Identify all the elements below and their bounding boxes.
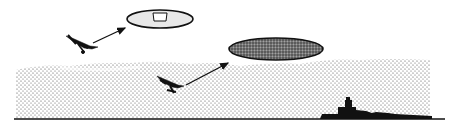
obscured-view-ellipse <box>229 38 323 60</box>
visibility-diagram <box>0 0 458 129</box>
upper-sight-arrow <box>93 28 125 43</box>
upper-aircraft-icon <box>66 35 98 54</box>
fog-layer <box>16 59 430 118</box>
clear-view-ellipse <box>127 10 193 28</box>
